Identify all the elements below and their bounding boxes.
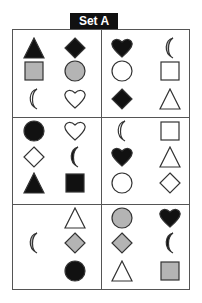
white-triangle-icon <box>64 207 86 229</box>
white-diamond-icon <box>159 172 181 194</box>
grid-vertical-divider <box>101 29 102 290</box>
grid-horizontal-divider-1 <box>12 117 190 118</box>
white-crescent-icon <box>111 120 133 142</box>
black-square-icon <box>64 172 86 194</box>
white-circle-icon <box>111 60 133 82</box>
grey-diamond-icon <box>64 232 86 254</box>
white-square-icon <box>159 120 181 142</box>
white-diamond-icon <box>23 146 45 168</box>
black-heart-icon <box>159 207 181 229</box>
white-heart-icon <box>64 120 86 142</box>
white-heart-icon <box>64 88 86 110</box>
black-triangle-icon <box>23 37 45 59</box>
black-crescent-icon <box>159 232 181 254</box>
grey-diamond-icon <box>111 232 133 254</box>
grey-crescent-icon <box>159 37 181 59</box>
set-title: Set A <box>70 13 118 29</box>
white-circle-icon <box>111 172 133 194</box>
black-triangle-icon <box>23 172 45 194</box>
grey-crescent-icon <box>23 232 45 254</box>
grey-circle-icon <box>111 207 133 229</box>
black-heart-icon <box>111 146 133 168</box>
grey-square-icon <box>159 260 181 282</box>
white-crescent-icon <box>23 88 45 110</box>
black-crescent-icon <box>64 146 86 168</box>
white-triangle-icon <box>159 88 181 110</box>
grey-circle-icon <box>64 60 86 82</box>
black-heart-icon <box>111 37 133 59</box>
white-triangle-icon <box>159 146 181 168</box>
grid-horizontal-divider-2 <box>12 204 190 205</box>
black-diamond-icon <box>111 88 133 110</box>
white-square-icon <box>159 60 181 82</box>
white-triangle-icon <box>111 260 133 282</box>
black-circle-icon <box>23 120 45 142</box>
black-circle-icon <box>64 260 86 282</box>
grey-square-icon <box>23 60 45 82</box>
black-diamond-icon <box>64 37 86 59</box>
